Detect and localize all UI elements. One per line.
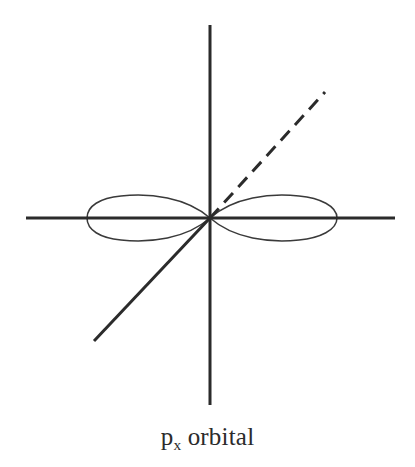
caption-word-orbital: orbital <box>188 423 255 450</box>
caption-subscript: x <box>173 436 181 453</box>
caption-base-letter: p <box>161 423 174 450</box>
diagonal-axis-dashed-upper-right <box>210 92 325 218</box>
diagonal-axis-solid-lower-left <box>94 218 210 341</box>
orbital-diagram-svg <box>0 0 415 467</box>
orbital-figure: pxorbital <box>0 0 415 467</box>
figure-caption: pxorbital <box>0 424 415 452</box>
